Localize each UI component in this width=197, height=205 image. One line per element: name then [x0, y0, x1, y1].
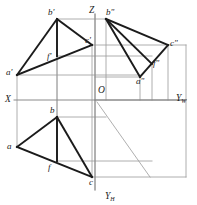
point-label-a-plain: a	[7, 142, 12, 151]
h-projection-edge-0	[17, 117, 57, 147]
point-label-b-double-prime: b"	[106, 8, 114, 17]
axis-label-origin: O	[98, 86, 105, 96]
bisector-layer	[97, 102, 150, 177]
point-label-f-prime: f'	[47, 52, 51, 61]
point-label-a-double-prime: a"	[136, 77, 144, 86]
point-label-c-prime: c'	[85, 36, 91, 45]
point-label-a-prime: a'	[6, 68, 12, 77]
axes-layer	[14, 14, 186, 190]
axis-label-z-axis: Z	[89, 6, 94, 16]
point-label-b-prime: b'	[48, 8, 54, 17]
w-projection-edge-1	[106, 19, 168, 45]
point-label-f-double-prime: f"	[153, 59, 159, 68]
axis-label-yw-axis: YW	[176, 94, 186, 104]
object-edges-layer	[17, 19, 168, 177]
point-label-c-plain: c	[89, 178, 93, 187]
h-projection-edge-2	[17, 147, 92, 177]
diagram-canvas	[0, 0, 197, 205]
projection-diagram: XZYWYHOa'b'c'f'a"b"c"f"abcf	[0, 0, 197, 205]
point-label-b-plain: b	[50, 106, 55, 115]
h-projection-edge-1	[57, 117, 92, 177]
axis-label-x-axis: X	[5, 95, 11, 105]
axis-label-yh-axis: YH	[105, 192, 115, 202]
point-label-c-double-prime: c"	[170, 39, 178, 48]
bisector-line	[97, 102, 150, 177]
point-label-f-plain: f	[48, 163, 51, 172]
